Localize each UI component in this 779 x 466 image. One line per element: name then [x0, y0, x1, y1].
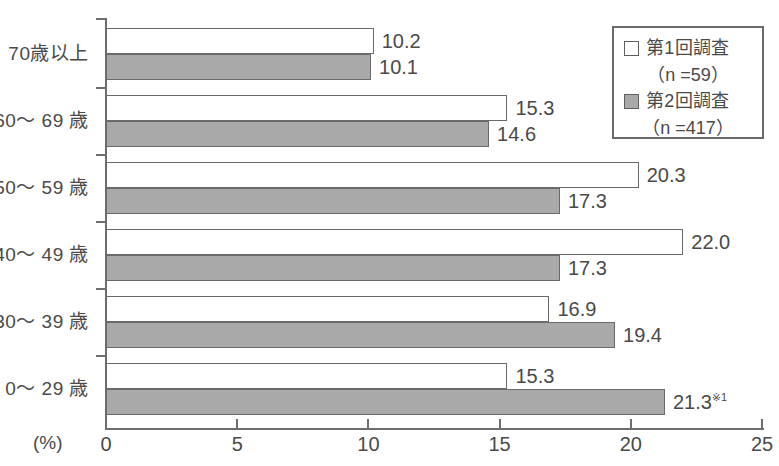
x-axis-tick-label-25: 25 — [751, 434, 773, 454]
bar-value-survey-2-3: 17.3 — [568, 258, 607, 278]
bar-survey-2-3 — [106, 255, 560, 281]
bar-chart: 0510152025 70歳以上60〜 69 歳50〜 59 歳40〜 49 歳… — [0, 0, 779, 466]
y-axis-separator-tick-3 — [96, 288, 106, 290]
x-axis-tick-10 — [367, 419, 369, 430]
x-axis-tick-label-0: 0 — [100, 434, 111, 454]
x-axis-tick-label-5: 5 — [232, 434, 243, 454]
x-axis-tick-5 — [236, 419, 238, 430]
bar-value-survey-2-2: 17.3 — [568, 191, 607, 211]
legend-sublabel-survey-2: （n =417） — [624, 114, 754, 141]
category-label-0: 70歳以上 — [0, 43, 89, 65]
x-axis-tick-label-20: 20 — [620, 434, 642, 454]
bar-value-survey-2-5: 21.3※1 — [673, 392, 727, 412]
bar-survey-1-3 — [106, 229, 683, 255]
legend-swatch-survey-1 — [624, 41, 639, 56]
bar-value-survey-1-0: 10.2 — [382, 31, 421, 51]
bar-value-survey-1-2: 20.3 — [647, 165, 686, 185]
bar-value-survey-2-0: 10.1 — [379, 57, 418, 77]
bar-value-survey-1-5: 15.3 — [515, 366, 554, 386]
bar-value-survey-2-1: 14.6 — [497, 124, 536, 144]
bar-value-survey-2-4: 19.4 — [623, 325, 662, 345]
bar-value-survey-1-1: 15.3 — [515, 98, 554, 118]
legend-sublabel-survey-1: （n =59） — [624, 61, 754, 88]
bar-value-footnote-mark-5: ※1 — [712, 391, 727, 403]
bar-survey-1-1 — [106, 95, 507, 121]
y-axis-top-cap — [96, 18, 106, 20]
bar-value-survey-1-4: 16.9 — [557, 299, 596, 319]
legend-label-survey-2: 第2回調査 — [646, 91, 730, 111]
category-label-1: 60〜 69 歳 — [0, 110, 89, 132]
bar-survey-1-5 — [106, 363, 507, 389]
y-axis-separator-tick-4 — [96, 355, 106, 357]
y-axis-separator-tick-1 — [96, 154, 106, 156]
legend-box: 第1回調査 （n =59） 第2回調査 （n =417） — [612, 26, 764, 139]
bar-survey-2-4 — [106, 322, 615, 348]
x-axis-tick-25 — [761, 419, 763, 430]
bar-survey-2-5 — [106, 389, 665, 415]
bar-survey-1-2 — [106, 162, 639, 188]
category-label-3: 40〜 49 歳 — [0, 244, 89, 266]
x-axis-line — [105, 428, 764, 430]
x-axis-tick-15 — [499, 419, 501, 430]
bar-survey-2-1 — [106, 121, 489, 147]
legend-item-survey-1: 第1回調査 — [624, 35, 754, 61]
bar-survey-2-0 — [106, 54, 371, 80]
legend-item-survey-2: 第2回調査 — [624, 88, 754, 114]
bar-survey-2-2 — [106, 188, 560, 214]
axis-unit-label: (%) — [33, 433, 63, 453]
category-label-2: 50〜 59 歳 — [0, 177, 89, 199]
x-axis-tick-0 — [105, 419, 107, 430]
y-axis-separator-tick-0 — [96, 87, 106, 89]
bar-value-survey-1-3: 22.0 — [691, 232, 730, 252]
bar-survey-1-4 — [106, 296, 549, 322]
x-axis-tick-20 — [630, 419, 632, 430]
bar-survey-1-0 — [106, 28, 374, 54]
x-axis-tick-label-15: 15 — [488, 434, 510, 454]
legend-label-survey-1: 第1回調査 — [646, 38, 730, 58]
x-axis-tick-label-10: 10 — [357, 434, 379, 454]
legend-swatch-survey-2 — [624, 94, 639, 109]
category-label-5: 0〜 29 歳 — [0, 378, 89, 400]
y-axis-separator-tick-2 — [96, 221, 106, 223]
category-label-4: 30〜 39 歳 — [0, 311, 89, 333]
